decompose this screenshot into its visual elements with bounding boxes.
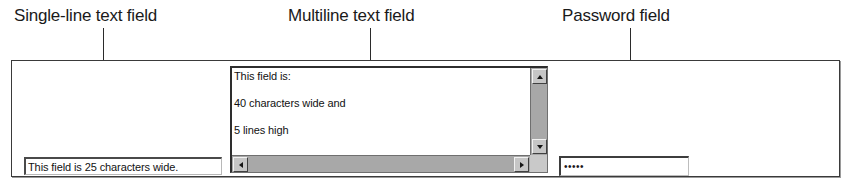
scroll-up-icon[interactable]: [532, 69, 547, 84]
multiline-textarea[interactable]: This field is: 40 characters wide and 5 …: [230, 66, 548, 173]
textarea-line-3: 5 lines high: [234, 124, 530, 137]
scroll-left-icon[interactable]: [233, 157, 248, 172]
scroll-right-icon[interactable]: [514, 157, 529, 172]
textarea-vertical-scrollbar[interactable]: [530, 68, 547, 155]
textarea-text-region[interactable]: This field is: 40 characters wide and 5 …: [232, 68, 530, 155]
form-fields-figure: Single-line text field Multiline text fi…: [0, 0, 853, 189]
textarea-horizontal-scrollbar[interactable]: [232, 155, 530, 172]
callout-label-password: Password field: [562, 6, 670, 26]
single-line-text-input[interactable]: This field is 25 characters wide.: [24, 157, 222, 175]
scroll-down-icon[interactable]: [532, 139, 547, 154]
rendered-page-panel: This field is 25 characters wide. This f…: [11, 60, 840, 177]
textarea-line-2: 40 characters wide and: [234, 97, 530, 110]
password-input[interactable]: •••••: [559, 156, 689, 176]
password-masked-value: •••••: [561, 158, 688, 173]
callout-label-single-line: Single-line text field: [14, 6, 157, 26]
single-line-input-value: This field is 25 characters wide.: [26, 159, 221, 174]
arrow-up-glyph: [537, 75, 543, 79]
callout-label-multiline: Multiline text field: [288, 6, 414, 26]
textarea-line-1: This field is:: [234, 70, 530, 83]
scrollbar-corner: [530, 155, 547, 172]
arrow-right-glyph: [520, 162, 524, 168]
arrow-down-glyph: [537, 145, 543, 149]
arrow-left-glyph: [239, 162, 243, 168]
